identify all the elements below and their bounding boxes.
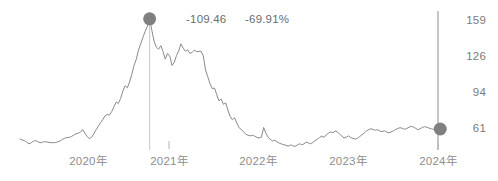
peak-marker-dot[interactable] — [143, 12, 156, 25]
y-axis-tick-label: 61 — [452, 122, 486, 134]
line-series-price — [20, 19, 438, 147]
chart-container: -109.46 -69.91% 1591269461 2020年2021年202… — [0, 0, 498, 181]
y-axis-tick-label: 126 — [452, 50, 486, 62]
peak-change-label: -69.91% — [245, 13, 289, 25]
peak-value-label: -109.46 — [186, 13, 226, 25]
x-axis-tick-label: 2022年 — [239, 152, 277, 168]
end-marker-dot[interactable] — [434, 123, 447, 136]
x-axis-tick-label: 2023年 — [329, 152, 367, 168]
x-axis-tick-marks — [169, 141, 438, 149]
x-axis-tick-label: 2020年 — [69, 152, 107, 168]
y-axis-tick-label: 94 — [452, 86, 486, 98]
y-axis-tick-label: 159 — [452, 14, 486, 26]
x-axis-tick-label: 2024年 — [419, 152, 457, 168]
x-axis-tick-label: 2021年 — [150, 152, 188, 168]
